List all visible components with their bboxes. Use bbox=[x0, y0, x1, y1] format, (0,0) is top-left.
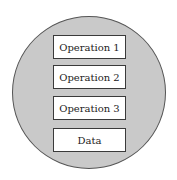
operation-2-label: Operation 2 bbox=[59, 72, 119, 83]
operation-2-box: Operation 2 bbox=[53, 65, 126, 89]
encapsulation-diagram: Operation 1 Operation 2 Operation 3 Data bbox=[0, 0, 177, 180]
operation-3-box: Operation 3 bbox=[53, 96, 126, 120]
operation-1-label: Operation 1 bbox=[59, 42, 119, 53]
data-label: Data bbox=[78, 135, 102, 146]
data-box: Data bbox=[53, 128, 126, 152]
operation-1-box: Operation 1 bbox=[53, 35, 126, 59]
operation-3-label: Operation 3 bbox=[59, 103, 119, 114]
